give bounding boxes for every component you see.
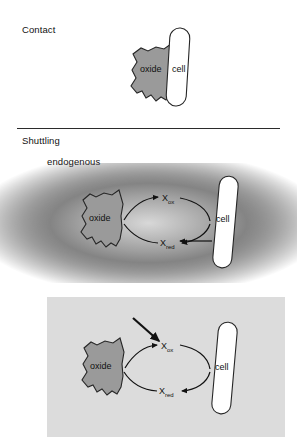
panel-exogenous: oxide cell Xox Xred [47, 297, 285, 437]
oxide-label-endogenous: oxide [89, 213, 111, 223]
endogenous-background [0, 163, 297, 283]
panel-contact: oxide cell [131, 27, 190, 106]
panel-endogenous: oxide cell Xox Xred [0, 163, 297, 283]
cell-label-endogenous: cell [216, 214, 230, 224]
exogenous-background [47, 297, 285, 437]
oxide-label-contact: oxide [140, 64, 162, 74]
cell-label-contact: cell [172, 64, 186, 74]
oxide-label-exogenous: oxide [90, 361, 112, 371]
figure-root: Contact Shuttling endogenous exogenous [0, 0, 297, 448]
cell-label-exogenous: cell [215, 362, 229, 372]
figure-canvas: oxide cell oxide cell Xox Xred [0, 0, 297, 448]
